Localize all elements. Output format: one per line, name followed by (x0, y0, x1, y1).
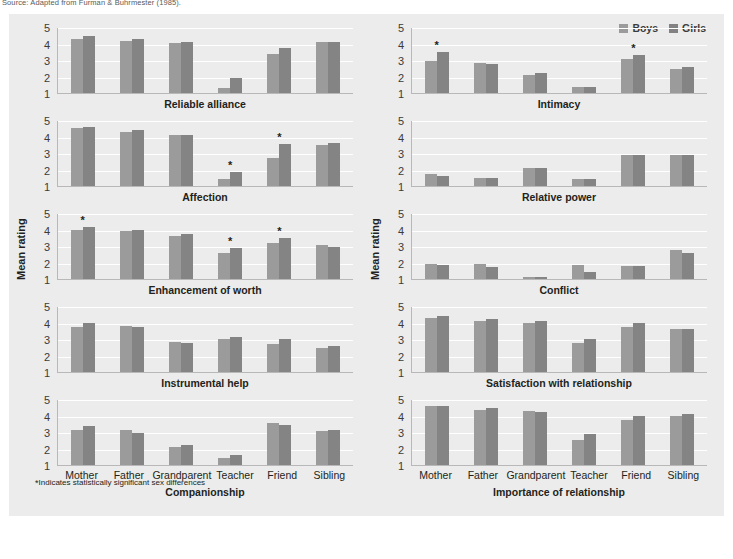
bar-girls (328, 430, 340, 465)
bar-girls (83, 323, 95, 372)
small-multiples-grid: 54321Reliable alliance54321**Intimacy543… (9, 14, 724, 516)
bar-boys (316, 431, 328, 465)
y-tick-label: 4 (44, 318, 50, 329)
bar-girls (279, 339, 291, 372)
bar-group (609, 400, 658, 465)
bar-girls (633, 55, 645, 93)
x-axis-line (411, 465, 707, 466)
panel-title: Reliable alliance (57, 98, 353, 110)
y-tick-label: 2 (398, 258, 404, 269)
bar-girls (328, 143, 340, 186)
significance-asterisk-icon: * (277, 132, 281, 143)
y-tick-label: 1 (398, 182, 404, 193)
y-tick-label: 4 (44, 132, 50, 143)
bar-boys (425, 318, 437, 372)
y-tick-label: 3 (44, 428, 50, 439)
bar-boys (425, 61, 437, 93)
y-tick-label: 4 (398, 39, 404, 50)
chart-panel-instrumental-help: 54321Instrumental help (23, 307, 353, 399)
bar-group (560, 307, 609, 372)
figure-panel-container: Boys Girls 54321Reliable alliance54321**… (9, 14, 724, 516)
bar-boys (670, 250, 682, 279)
bar-boys (267, 243, 279, 279)
bar-boys (670, 69, 682, 93)
bar-group (156, 307, 205, 372)
bar-girls (633, 266, 645, 279)
y-axis-ticks: 54321 (23, 214, 55, 280)
bar-group (107, 400, 156, 465)
bar-group (156, 121, 205, 186)
chart-panel-affection: 54321**Affection (23, 121, 353, 213)
bar-group (58, 121, 107, 186)
x-tick-label: Teacher (565, 469, 612, 481)
y-tick-label: 4 (398, 225, 404, 236)
panel-title: Enhancement of worth (57, 284, 353, 296)
bar-boys (169, 342, 181, 372)
bar-boys (572, 87, 584, 93)
y-axis-ticks: 54321 (23, 400, 55, 466)
y-tick-label: 5 (44, 395, 50, 406)
panel-title: Relative power (411, 191, 707, 203)
bar-boys (267, 423, 279, 465)
x-axis-line (411, 279, 707, 280)
bar-boys (523, 323, 535, 372)
y-axis-ticks: 54321 (23, 121, 55, 187)
x-axis-line (411, 93, 707, 94)
bar-girls (584, 434, 596, 465)
bar-group (658, 400, 707, 465)
bar-girls (437, 52, 449, 93)
bar-group (658, 121, 707, 186)
bar-group: * (206, 121, 255, 186)
chart-panel-enhancement-of-worth: 54321***Enhancement of worth (23, 214, 353, 306)
bar-boys (71, 230, 83, 279)
y-tick-label: 5 (398, 302, 404, 313)
bar-boys (523, 168, 535, 186)
bar-boys (572, 179, 584, 186)
bar-boys (120, 231, 132, 279)
y-tick-label: 1 (398, 368, 404, 379)
bar-boys (523, 75, 535, 93)
bar-boys (523, 277, 535, 279)
bar-boys (169, 43, 181, 93)
y-tick-label: 5 (398, 395, 404, 406)
y-tick-label: 2 (44, 351, 50, 362)
y-tick-label: 4 (398, 411, 404, 422)
significance-asterisk-icon: * (228, 160, 232, 171)
bar-series-container: ** (58, 121, 353, 186)
bar-boys (670, 416, 682, 465)
bar-girls (584, 272, 596, 279)
bar-girls (633, 416, 645, 465)
bar-group (560, 400, 609, 465)
bar-group: * (412, 28, 461, 93)
y-tick-label: 1 (398, 275, 404, 286)
x-tick-label: Father (459, 469, 506, 481)
bar-girls (584, 87, 596, 93)
bar-group (510, 400, 559, 465)
bar-series-container (412, 214, 707, 279)
bar-boys (71, 327, 83, 372)
bar-girls (83, 426, 95, 465)
bar-boys (572, 343, 584, 372)
x-tick-label: Sibling (306, 469, 353, 481)
bar-boys (120, 41, 132, 93)
y-tick-label: 5 (44, 116, 50, 127)
bar-boys (218, 179, 230, 186)
y-tick-label: 3 (398, 428, 404, 439)
y-tick-label: 5 (44, 23, 50, 34)
x-tick-label: Friend (259, 469, 306, 481)
bar-group (609, 121, 658, 186)
bar-boys (120, 132, 132, 186)
bar-boys (316, 245, 328, 279)
y-tick-label: 2 (398, 72, 404, 83)
y-tick-label: 3 (398, 242, 404, 253)
bar-boys (316, 348, 328, 372)
panel-title: Intimacy (411, 98, 707, 110)
bar-group (560, 28, 609, 93)
bar-girls (181, 135, 193, 186)
bar-boys (218, 253, 230, 279)
bar-girls (633, 323, 645, 372)
bar-group (658, 307, 707, 372)
bar-girls (535, 321, 547, 372)
plot-area (411, 214, 707, 280)
bar-boys (71, 39, 83, 93)
